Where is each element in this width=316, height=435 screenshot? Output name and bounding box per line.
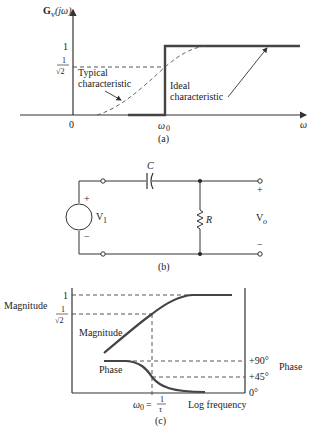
panel-c-omega0: ω (133, 399, 140, 410)
panel-a-caption: (a) (158, 133, 169, 145)
panel-a-level-half-num: 1 (62, 56, 66, 65)
panel-a-y-label-arg: (jω) (55, 5, 72, 17)
panel-c-magnitude-curve (104, 295, 232, 353)
panel-a-ideal-arrow (228, 48, 267, 97)
panel-c-phase-45: +45° (249, 371, 269, 382)
panel-a-omega0-label: ω (158, 120, 165, 131)
panel-c-omega0-sub: 0 (140, 403, 144, 412)
panel-a-typical-arrow (105, 91, 121, 100)
source-label-sub: 1 (103, 216, 107, 225)
panel-a-level-half-den: √2 (56, 67, 64, 76)
panel-c-magnitude-label: Magnitude (79, 327, 123, 338)
figure-canvas: G v (jω) 1 1 √2 Typical characteristic I… (0, 0, 316, 435)
panel-a-ideal-label-1: Ideal (170, 80, 190, 91)
capacitor-label: C (147, 160, 154, 171)
output-minus: − (257, 239, 263, 250)
resistor-icon (197, 210, 203, 229)
output-terminal-top (258, 179, 262, 183)
resistor-label: R (205, 214, 212, 225)
output-plus: + (257, 184, 263, 195)
panel-a-level-one: 1 (63, 41, 68, 52)
source-minus: − (84, 231, 90, 242)
panel-c-bode-plot: Magnitude 1 1 √2 Magnitude Phase +90° +4… (4, 288, 303, 427)
panel-c-tau-num: 1 (160, 395, 164, 404)
input-terminal-bottom (101, 252, 105, 256)
panel-c-phase-0: 0° (249, 387, 258, 398)
input-terminal-top (101, 179, 105, 183)
panel-a-typical-label-1: Typical (78, 67, 108, 78)
panel-c-x-title: Log frequency (188, 399, 247, 410)
panel-c-phase-label: Phase (99, 364, 123, 375)
panel-a-origin-label: 0 (69, 119, 74, 130)
output-terminal-bottom (258, 252, 262, 256)
panel-a-x-label: ω (300, 119, 307, 130)
panel-b-caption: (b) (158, 261, 170, 273)
voltage-source-icon (66, 204, 92, 230)
panel-c-caption: (c) (155, 415, 166, 427)
panel-c-phase-90: +90° (249, 355, 269, 366)
panel-c-left-title: Magnitude (4, 300, 48, 311)
panel-a-y-label: G (43, 5, 51, 16)
panel-c-level-half-num: 1 (61, 305, 65, 314)
panel-c-omega0-eq: = (146, 399, 152, 410)
output-label-sub: o (263, 217, 267, 226)
source-plus: + (84, 193, 90, 204)
panel-c-right-title: Phase (279, 361, 303, 372)
panel-a-ideal-curve (128, 46, 300, 115)
panel-b-rc-circuit: + − V 1 C R + − V o (b) (66, 160, 267, 273)
panel-a-typical-label-2: characteristic (78, 78, 132, 89)
panel-a-omega0-sub: 0 (166, 124, 170, 133)
panel-a-ideal-label-2: characteristic (170, 91, 224, 102)
panel-c-level-half-den: √2 (55, 316, 63, 325)
panel-c-tau-den: τ (159, 405, 163, 414)
panel-a-ideal-vs-typical-highpass: G v (jω) 1 1 √2 Typical characteristic I… (20, 5, 307, 145)
panel-c-level-one: 1 (63, 290, 68, 301)
